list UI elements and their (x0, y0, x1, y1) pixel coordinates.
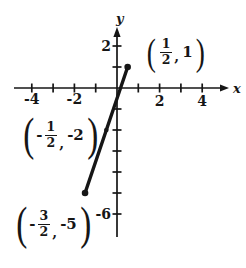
fraction-denominator: 2 (47, 136, 56, 150)
open-paren: ( (16, 201, 27, 247)
fraction-numerator: 3 (38, 210, 51, 225)
close-paren: ) (80, 201, 91, 247)
x-axis-label: x (232, 81, 241, 96)
endpoint-dot (124, 64, 131, 71)
x-fraction: 3 2 (38, 210, 51, 239)
endpoint-dot (82, 190, 89, 197)
fraction-numerator: 1 (160, 38, 173, 53)
fraction-denominator: 2 (40, 225, 49, 239)
open-paren: ( (147, 33, 156, 71)
point-label-middle: ( - 1 2 , -2 ) (21, 112, 100, 158)
point-label-bottom: ( - 3 2 , -5 ) (14, 201, 93, 247)
comma: , (59, 135, 64, 158)
midpoint-dot (104, 128, 109, 133)
y-axis-label: y (115, 11, 125, 26)
x-tick-label: 4 (197, 93, 207, 109)
x-tick-label: 2 (155, 93, 165, 109)
x-axis-arrow-icon (220, 84, 229, 91)
close-paren: ) (87, 112, 98, 158)
x-sign: - (29, 215, 35, 233)
comma: , (52, 224, 57, 247)
y-value: 1 (182, 43, 192, 61)
open-paren: ( (23, 112, 34, 158)
close-paren: ) (195, 33, 204, 71)
x-fraction: 1 2 (45, 121, 58, 150)
y-tick-label: -6 (95, 206, 111, 222)
x-sign: - (36, 126, 42, 144)
comma: , (174, 48, 179, 71)
x-tick-label: -2 (67, 91, 83, 107)
x-tick-label: -4 (24, 91, 40, 107)
y-tick-label: 2 (101, 38, 111, 54)
fraction-denominator: 2 (162, 53, 171, 67)
fraction-numerator: 1 (45, 121, 58, 136)
coordinate-plane-figure: xy-4-2242-6 ( 1 2 , 1 ) ( - 1 2 , -2 ) (… (0, 0, 246, 268)
y-axis-arrow-icon (113, 27, 120, 37)
y-value: -2 (67, 126, 84, 144)
y-value: -5 (60, 215, 77, 233)
x-fraction: 1 2 (160, 38, 173, 67)
point-label-positive: ( 1 2 , 1 ) (145, 33, 206, 71)
